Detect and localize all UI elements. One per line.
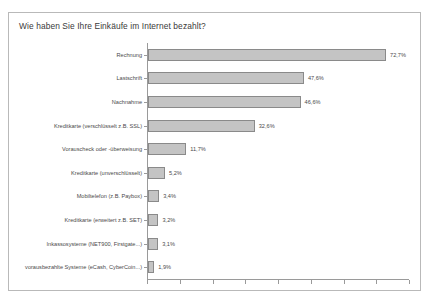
bar-row: Kreditkarte (erweitert z.B. SET)3,2% [147, 208, 409, 232]
bar [148, 120, 255, 132]
bar-row: Lastschrift47,6% [147, 67, 409, 91]
bar-row: Nachnahme46,6% [147, 90, 409, 114]
category-axis-tick [144, 196, 147, 197]
bar [148, 49, 386, 61]
category-axis-tick [144, 149, 147, 150]
plot-area: Rechnung72,7%Lastschrift47,6%Nachnahme46… [147, 43, 409, 279]
bar-value-label: 47,6% [308, 75, 324, 81]
bar-category-label: Kreditkarte (unverschlüsselt) [71, 169, 142, 176]
bar-value-label: 72,7% [390, 52, 406, 58]
bar-row: Rechnung72,7% [147, 43, 409, 67]
bar-value-label: 32,6% [259, 123, 275, 129]
bar-category-label: vorausbezahlte Systeme (eCash, CyberCoin… [22, 264, 142, 271]
bar-category-label: Kreditkarte (erweitert z.B. SET) [22, 216, 142, 223]
bar-category-label: Lastschrift [117, 75, 143, 82]
bar-value-label: 1,9% [158, 264, 171, 270]
bar-value-label: 3,2% [162, 217, 175, 223]
category-axis-tick [144, 78, 147, 79]
category-axis-tick [144, 55, 147, 56]
bar [148, 72, 304, 84]
bar-row: Mobiltelefon (z.B. Paybox)3,4% [147, 185, 409, 209]
bar-category-label: Vorauscheck oder -überweisung [62, 146, 142, 153]
bar-value-label: 5,2% [169, 170, 182, 176]
bar-value-label: 46,6% [305, 99, 321, 105]
value-axis-tick [278, 280, 279, 284]
category-axis-tick [144, 244, 147, 245]
value-axis-tick [311, 280, 312, 284]
bar-row: Inkassosysteme (NET900, Firstgate...)3,1… [147, 232, 409, 256]
bar-row: vorausbezahlte Systeme (eCash, CyberCoin… [147, 255, 409, 279]
chart-frame: Wie haben Sie Ihre Einkäufe im Internet … [8, 12, 421, 291]
category-axis-tick [144, 220, 147, 221]
value-axis-tick [245, 280, 246, 284]
bar [148, 261, 154, 273]
bar [148, 190, 159, 202]
chart-title: Wie haben Sie Ihre Einkäufe im Internet … [19, 21, 206, 31]
bar-category-label: Rechnung [116, 51, 142, 58]
bar-value-label: 11,7% [190, 146, 205, 152]
bar [148, 238, 158, 250]
value-axis-tick [344, 280, 345, 284]
bar [148, 214, 158, 226]
value-axis-tick [147, 280, 148, 284]
category-axis-tick [144, 267, 147, 268]
bar-category-label: Nachnahme [112, 98, 142, 105]
category-axis-tick [144, 102, 147, 103]
bar-row: Kreditkarte (unverschlüsselt)5,2% [147, 161, 409, 185]
bar [148, 167, 165, 179]
bar-value-label: 3,4% [163, 193, 176, 199]
category-axis-tick [144, 126, 147, 127]
bar-row: Vorauscheck oder -überweisung11,7% [147, 137, 409, 161]
bar-value-label: 3,1% [162, 241, 175, 247]
bar-row: Kreditkarte (verschlüsselt z.B. SSL)32,6… [147, 114, 409, 138]
bar [148, 143, 186, 155]
value-axis-tick [376, 280, 377, 284]
value-axis-tick [180, 280, 181, 284]
bar [148, 96, 301, 108]
value-axis-tick [409, 280, 410, 284]
bar-category-label: Mobiltelefon (z.B. Paybox) [77, 193, 142, 200]
bar-category-label: Kreditkarte (verschlüsselt z.B. SSL) [22, 122, 142, 129]
category-axis-tick [144, 173, 147, 174]
value-axis-tick [213, 280, 214, 284]
bar-category-label: Inkassosysteme (NET900, Firstgate...) [22, 240, 142, 247]
